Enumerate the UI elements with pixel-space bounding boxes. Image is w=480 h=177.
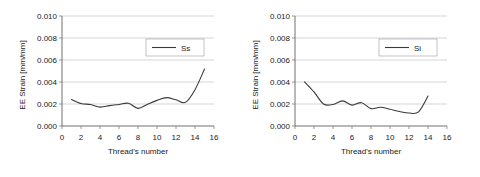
x-tick-label: 14 <box>191 133 200 142</box>
x-tick-label: 12 <box>172 133 181 142</box>
x-axis-title: Thread's number <box>341 147 402 156</box>
y-tick-label: 0.004 <box>37 78 58 87</box>
data-series-line <box>72 69 205 108</box>
y-tick-label: 0.000 <box>270 122 291 131</box>
x-tick-label: 6 <box>350 133 355 142</box>
chart-panel-right: EE Strain [mm/mm] 0.010 0.008 0.006 0.00… <box>240 0 480 177</box>
x-tick-label: 10 <box>153 133 162 142</box>
x-tick-label: 2 <box>312 133 317 142</box>
legend-label: Si <box>414 44 421 53</box>
data-series-line <box>305 82 429 114</box>
y-axis-title: EE Strain [mm/mm] <box>251 40 260 109</box>
x-tick-label: 0 <box>60 133 65 142</box>
y-tick-label: 0.002 <box>270 100 291 109</box>
x-tick-label: 12 <box>405 133 414 142</box>
chart-figure: EE Strain [mm/mm] 0.010 0.008 0.006 0.00… <box>0 0 480 177</box>
x-axis-title: Thread's number <box>108 147 169 156</box>
x-tick-label: 16 <box>443 133 452 142</box>
y-tick-label: 0.008 <box>270 34 291 43</box>
y-tick-label: 0.004 <box>270 78 291 87</box>
y-tick-label: 0.010 <box>37 12 58 21</box>
x-tick-label: 8 <box>369 133 374 142</box>
x-tick-label: 4 <box>331 133 336 142</box>
chart-panel-left: EE Strain [mm/mm] 0.010 0.008 0.006 0.00… <box>0 0 240 177</box>
x-tick-label: 8 <box>136 133 141 142</box>
y-tick-label: 0.002 <box>37 100 58 109</box>
legend: Si <box>379 39 437 56</box>
y-tick-label: 0.006 <box>37 56 58 65</box>
x-tick-label: 16 <box>210 133 219 142</box>
x-tick-label: 6 <box>117 133 122 142</box>
y-tick-label: 0.000 <box>37 122 58 131</box>
chart-svg-left: EE Strain [mm/mm] 0.010 0.008 0.006 0.00… <box>0 0 240 177</box>
legend: Ss <box>146 39 204 56</box>
legend-label: Ss <box>181 44 190 53</box>
chart-svg-right: EE Strain [mm/mm] 0.010 0.008 0.006 0.00… <box>240 0 480 177</box>
x-tick-label: 14 <box>424 133 433 142</box>
x-tick-label: 4 <box>98 133 103 142</box>
y-axis-title: EE Strain [mm/mm] <box>18 40 27 109</box>
y-tick-label: 0.010 <box>270 12 291 21</box>
x-tick-label: 10 <box>386 133 395 142</box>
y-tick-label: 0.008 <box>37 34 58 43</box>
x-tick-label: 0 <box>293 133 298 142</box>
x-tick-label: 2 <box>79 133 84 142</box>
y-tick-label: 0.006 <box>270 56 291 65</box>
